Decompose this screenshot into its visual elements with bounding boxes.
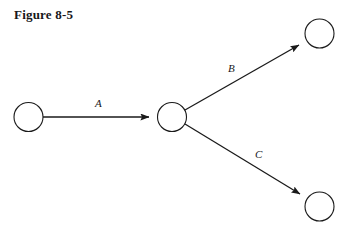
node-group: [14, 19, 334, 221]
edge-a-label: A: [94, 97, 102, 109]
lower-target-node: [305, 192, 334, 221]
edge-b-label: B: [228, 62, 235, 74]
edge-c-label: C: [255, 148, 263, 160]
edge-b-line: [185, 45, 299, 110]
figure-container: Figure 8-5 A B C: [0, 0, 348, 233]
network-diagram: A B C: [0, 0, 348, 233]
junction-node: [158, 103, 187, 132]
source-node: [14, 103, 43, 132]
edge-c-line: [185, 124, 300, 194]
upper-target-node: [305, 19, 334, 48]
